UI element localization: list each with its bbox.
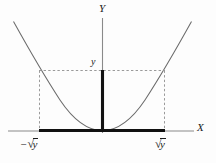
radicand-right: y <box>160 138 166 151</box>
y-value-label: y <box>91 57 95 67</box>
radical-group-right: √y <box>155 138 166 151</box>
y-axis-label: Y <box>99 3 105 14</box>
pos-sqrt-y-label: √y <box>155 138 166 151</box>
radical-group-left: √y <box>27 138 38 151</box>
minus-sign: − <box>20 138 27 150</box>
radicand-left: y <box>33 138 39 151</box>
parabola-figure: Y X y −√y √y <box>0 0 216 163</box>
neg-sqrt-y-label: −√y <box>20 138 38 151</box>
x-axis-label: X <box>197 122 204 133</box>
